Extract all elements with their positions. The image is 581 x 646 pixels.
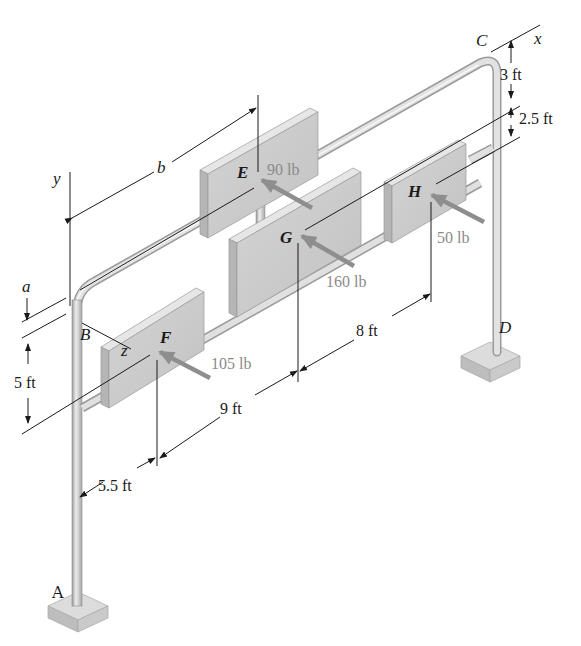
dim-label-9ft: 9 ft — [220, 400, 242, 417]
axis-label-z: z — [120, 341, 128, 360]
dim-label-3ft: 3 ft — [500, 66, 522, 83]
point-label-G: G — [280, 228, 293, 247]
dim-label-8ft: 8 ft — [356, 322, 378, 339]
dim-label-2-5ft: 2.5 ft — [519, 110, 553, 127]
dim-label-a: a — [22, 277, 31, 296]
panel-F — [101, 288, 204, 408]
point-label-F: F — [159, 328, 172, 347]
force-label-E: 90 lb — [267, 161, 299, 178]
point-label-A: A — [51, 583, 64, 602]
base-D — [461, 342, 520, 382]
force-label-G: 160 lb — [326, 273, 366, 290]
point-label-C: C — [476, 31, 488, 50]
panel-H — [384, 140, 466, 243]
force-label-F: 105 lb — [211, 355, 251, 372]
dim-label-5-5ft: 5.5 ft — [98, 477, 132, 494]
frame-diagram: y x z A B C D E F G H 90 lb 105 lb 160 l… — [0, 0, 581, 646]
point-label-E: E — [236, 163, 248, 182]
point-label-B: B — [80, 325, 91, 344]
force-label-H: 50 lb — [437, 229, 469, 246]
dim-label-b: b — [157, 158, 166, 177]
dim-label-5ft: 5 ft — [14, 374, 36, 391]
labels: y x z A B C D E F G H 90 lb 105 lb 160 l… — [14, 29, 553, 602]
axis-label-x: x — [533, 29, 542, 48]
axis-label-y: y — [51, 169, 61, 188]
point-label-D: D — [498, 318, 512, 337]
point-label-H: H — [407, 182, 422, 201]
